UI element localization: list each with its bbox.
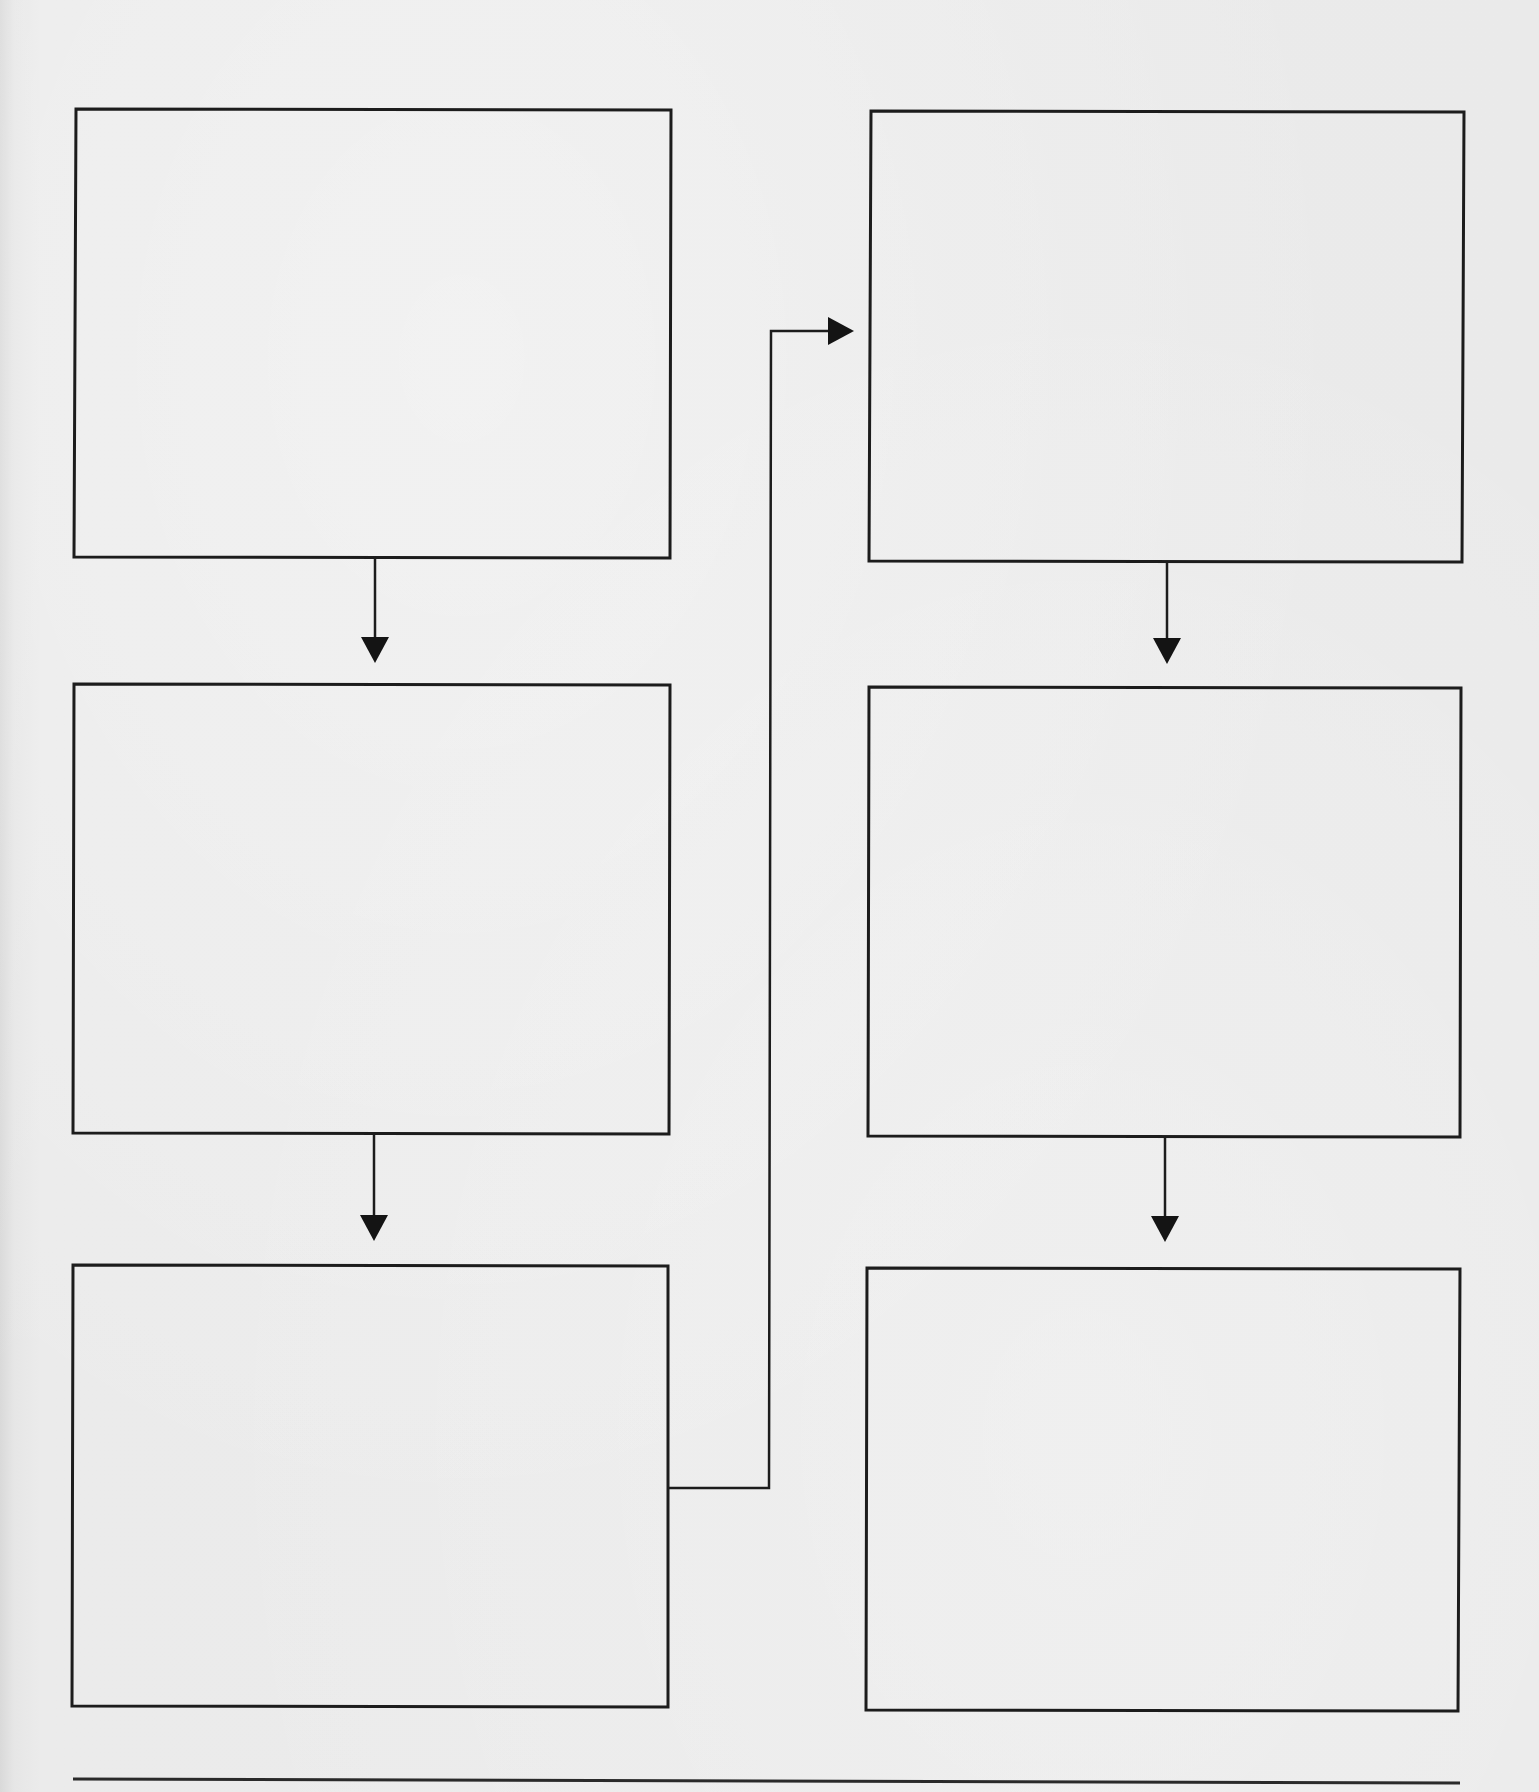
elbow-connector [668, 331, 830, 1488]
flow-box-3[interactable] [72, 1265, 668, 1707]
flow-box-5[interactable] [868, 687, 1461, 1137]
flow-box-2[interactable] [73, 684, 670, 1134]
arrow-box1-to-box2 [361, 558, 389, 663]
arrow-box5-to-box6 [1151, 1137, 1179, 1242]
arrow-down-icon [1153, 638, 1181, 664]
arrow-box2-to-box3 [360, 1134, 388, 1241]
flow-box-6[interactable] [866, 1268, 1460, 1711]
arrow-down-icon [1151, 1216, 1179, 1242]
flow-box-4[interactable] [869, 111, 1464, 562]
arrow-box3-to-box4 [668, 317, 854, 1488]
flow-box-1[interactable] [74, 109, 671, 558]
arrow-down-icon [360, 1215, 388, 1241]
sequence-flowchart [0, 0, 1539, 1792]
footer-rule [73, 1779, 1460, 1783]
arrow-right-icon [828, 317, 854, 345]
arrow-down-icon [361, 637, 389, 663]
arrow-box4-to-box5 [1153, 562, 1181, 664]
